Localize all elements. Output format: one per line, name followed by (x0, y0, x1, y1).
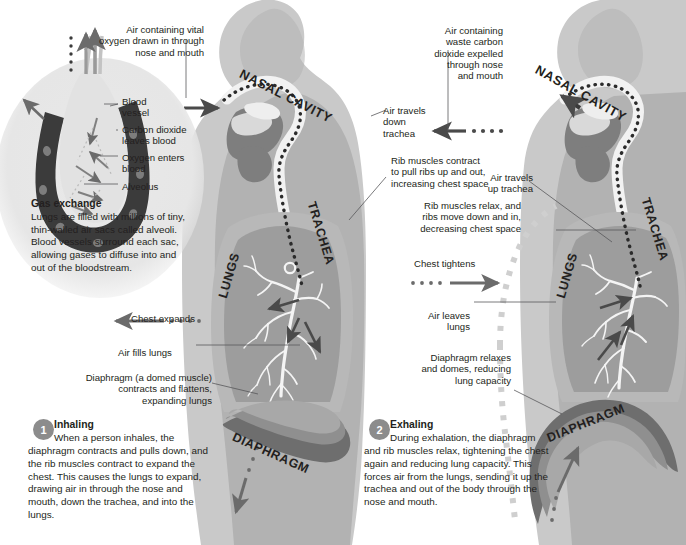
inset-label-alveolus: Alveolus (122, 181, 158, 192)
step2-heading: Exhaling (390, 419, 433, 430)
step2-body: During exhalation, the diaphragm and rib… (364, 432, 548, 507)
annotation-diaphragm-relaxes: Diaphragm relaxes and domes, reducing lu… (385, 352, 511, 386)
step1-body: When a person inhales, the diaphragm con… (28, 432, 208, 520)
inset-label-carbon-dioxide: Carbon dioxide leaves blood (122, 124, 187, 147)
inset-label-blood-vessel: Blood vessel (122, 96, 149, 119)
annotation-air-fills-lungs: Air fills lungs (118, 347, 172, 358)
annotation-air-travels-down-trachea: Air travels down trachea (383, 105, 426, 139)
step1-heading: Inhaling (54, 419, 94, 430)
inset-label-oxygen-enters: Oxygen enters blood (122, 152, 184, 175)
annotation-chest-expands: Chest expands (131, 313, 195, 324)
annotation-air-leaves-lungs: Air leaves lungs (400, 310, 470, 333)
annotation-chest-tightens: Chest tightens (414, 258, 475, 269)
respiration-diagram: Blood vessel Carbon dioxide leaves blood… (0, 0, 686, 545)
inset-heading: Gas exchange (31, 198, 101, 210)
left-caption-inhale-air: Air containing vital oxygen drawn in thr… (64, 24, 204, 58)
annotation-diaphragm-contracts: Diaphragm (a domed muscle) contracts and… (60, 372, 212, 406)
annotation-rib-muscles-relax: Rib muscles relax, and ribs move down an… (381, 200, 521, 234)
right-caption-exhale-air: Air containing waste carbon dioxide expe… (398, 25, 503, 82)
inset-body-text: Lungs are filled with millions of tiny, … (31, 211, 191, 274)
annotation-air-travels-up-trachea: Air travels up trachea (455, 172, 533, 195)
